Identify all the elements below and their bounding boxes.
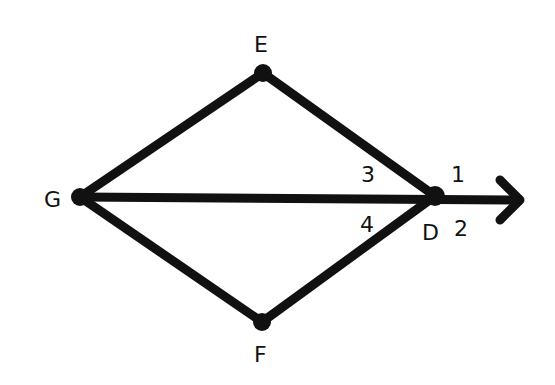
angle-label-2: 2: [454, 216, 468, 241]
angle-label-3: 3: [361, 162, 375, 187]
geometry-diagram: G E D F 1 2 3 4: [0, 0, 555, 385]
label-D: D: [422, 220, 439, 245]
label-F: F: [254, 342, 267, 367]
segment-GF: [80, 197, 262, 322]
point-E: [254, 64, 272, 82]
segment-ED: [263, 73, 435, 196]
point-G: [71, 188, 89, 206]
point-D: [425, 186, 445, 206]
label-E: E: [254, 32, 268, 57]
label-G: G: [44, 187, 61, 212]
angle-label-1: 1: [451, 162, 465, 187]
point-F: [253, 313, 271, 331]
segment-GD-ray: [80, 197, 518, 200]
segment-GE: [80, 73, 263, 197]
angle-label-4: 4: [360, 212, 374, 237]
segment-FD: [262, 196, 435, 322]
